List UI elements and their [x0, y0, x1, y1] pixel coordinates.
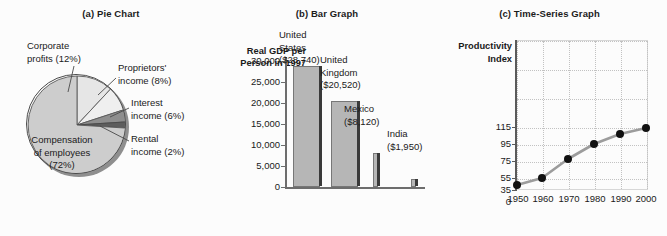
pie-label-rental-income: Rental income (2%)	[131, 133, 184, 158]
ts-ytick-label-55: 55	[500, 172, 511, 183]
gridline-v-1980	[595, 41, 597, 189]
bar-ytick-label-30000: 30,000	[251, 55, 280, 66]
bar-caption-india: India ($1,950)	[387, 128, 422, 153]
bar-ytick-label-0: 0	[275, 181, 280, 192]
gridline-v-1970	[569, 41, 571, 189]
pie-label-corporate-profits: Corporate profits (12%)	[27, 40, 81, 65]
time-series-grid	[516, 40, 648, 190]
ts-ytick-75	[512, 161, 516, 162]
gridline-h-75	[517, 162, 647, 164]
ts-xtick-label-1970: 1970	[558, 193, 579, 204]
bar-caption-mexico: Mexico ($8,120)	[344, 103, 379, 128]
pie-label-compensation-of-employees: Compensation of employees (72%)	[16, 134, 108, 172]
time-series-plot-area: 115 95 75 55 35 0 1950 1960 1970 1980 19…	[516, 40, 648, 190]
bar-ytick-label-10000: 10,000	[251, 139, 280, 150]
bar-graph-y-axis	[285, 57, 287, 188]
gridline-h-top	[517, 41, 647, 43]
panel-bar-graph: (b) Bar Graph Real GDP per Person in 199…	[222, 0, 432, 236]
ts-point-1980	[590, 140, 598, 148]
ts-xtick-label-2000: 2000	[635, 193, 656, 204]
ts-point-1990	[616, 130, 624, 138]
pie-label-interest-income: Interest income (6%)	[131, 97, 184, 122]
bar-ytick-label-5000: 5,000	[256, 160, 280, 171]
bar-united-states	[293, 66, 320, 187]
bar-caption-united-kingdom: United Kingdom ($20,520)	[320, 54, 361, 92]
ts-ytick-115	[512, 127, 516, 128]
bar-ytick-15000	[281, 124, 285, 125]
bar-ytick-5000	[281, 166, 285, 167]
gridline-v-1990	[621, 41, 623, 189]
ts-ytick-95	[512, 144, 516, 145]
ts-ytick-label-75: 75	[500, 155, 511, 166]
time-series-y-axis-title: Productivity Index	[434, 40, 512, 65]
ts-ytick-0	[512, 190, 516, 191]
ts-xtick-label-1950: 1950	[507, 193, 528, 204]
bar-ytick-label-15000: 15,000	[251, 118, 280, 129]
ts-point-1960	[538, 174, 546, 182]
ts-point-2000	[642, 124, 650, 132]
bar-ytick-10000	[281, 145, 285, 146]
gridline-h-95	[517, 145, 647, 147]
panel-pie-chart: (a) Pie Chart Corporate	[0, 0, 222, 236]
panel-time-series-graph: (c) Time-Series Graph Productivity Index	[432, 0, 667, 236]
gridline-h-55	[517, 179, 647, 181]
bar-ytick-20000	[281, 103, 285, 104]
bar-ytick-0	[281, 187, 285, 188]
panel-c-title: (c) Time-Series Graph	[432, 8, 667, 19]
ts-xtick-label-1980: 1980	[584, 193, 605, 204]
bar-ytick-label-20000: 20,000	[251, 97, 280, 108]
bar-ytick-label-25000: 25,000	[251, 76, 280, 87]
ts-ytick-label-115: 115	[496, 121, 511, 132]
panel-b-title: (b) Bar Graph	[222, 8, 432, 19]
bar-ytick-25000	[281, 82, 285, 83]
ts-point-1970	[564, 155, 572, 163]
panel-a-title: (a) Pie Chart	[0, 8, 222, 19]
ts-xtick-label-1960: 1960	[532, 193, 553, 204]
gridline-v-1960	[543, 41, 545, 189]
gridline-v-2000	[647, 41, 649, 189]
ts-ytick-55	[512, 178, 516, 179]
figure-canvas: (a) Pie Chart Corporate	[0, 0, 667, 236]
gridline-h-115	[517, 128, 647, 130]
ts-ytick-label-95: 95	[500, 138, 511, 149]
ts-point-1950	[513, 181, 521, 189]
bar-india	[411, 179, 416, 187]
bar-caption-united-states: United States ($28,740)	[279, 29, 320, 67]
bar-graph-x-axis	[285, 187, 425, 189]
gridline-v-1950	[517, 41, 519, 189]
pie-label-proprietors-income: Proprietors' income (8%)	[118, 62, 171, 87]
bar-mexico	[373, 153, 378, 187]
gridline-h-135	[517, 99, 647, 101]
gridline-h-155	[517, 70, 647, 72]
time-series-y-axis	[515, 40, 517, 191]
ts-xtick-label-1990: 1990	[610, 193, 631, 204]
